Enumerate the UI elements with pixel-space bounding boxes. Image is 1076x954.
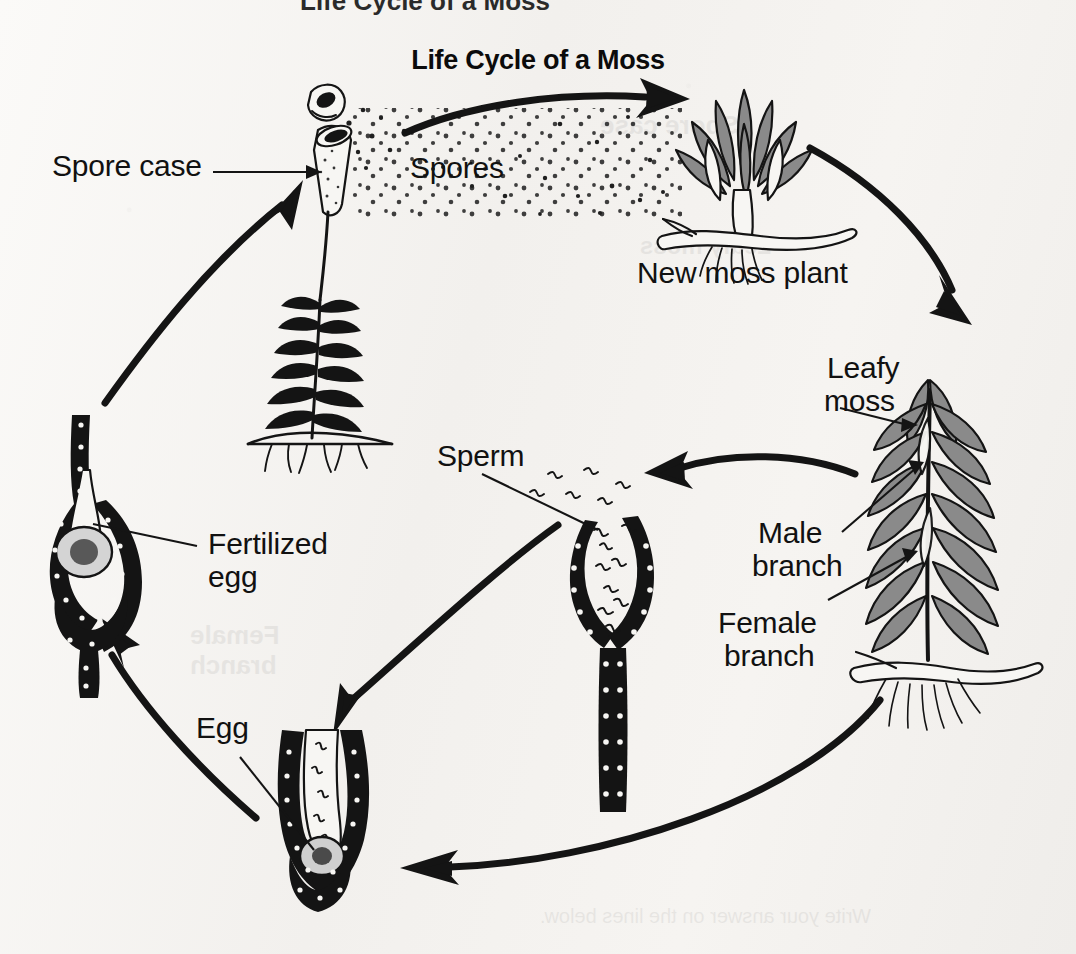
label-spores: Spores xyxy=(410,152,504,184)
operculum-lid xyxy=(308,85,345,121)
label-female-branch-line2: branch xyxy=(724,640,815,672)
new-moss-plant-figure xyxy=(658,90,857,284)
label-leafy-moss-line1: Leafy xyxy=(827,352,899,384)
label-fertilized-egg-line2: egg xyxy=(208,561,257,593)
antheridium-sperm-figure xyxy=(530,468,654,812)
archegonium-fertilized-egg-figure xyxy=(50,415,142,698)
moss-life-cycle-figure: Spore case Leafy moss Female branch Writ… xyxy=(0,0,1076,954)
arrow-leafy-moss-to-sperm xyxy=(644,451,855,489)
label-new-moss-plant: New moss plant xyxy=(637,257,848,289)
label-female-branch-line1: Female xyxy=(718,607,817,639)
leafy-moss-figure xyxy=(850,380,1042,730)
label-leafy-moss-line2: moss xyxy=(824,385,895,417)
life-cycle-diagram: .ink { stroke:#141414; fill:none; stroke… xyxy=(0,0,1076,954)
arrow-sperm-to-egg xyxy=(333,525,558,735)
label-egg: Egg xyxy=(196,712,249,744)
label-male-branch-line1: Male xyxy=(758,517,822,549)
leader-line-spore-case xyxy=(213,165,322,179)
leader-line-sperm xyxy=(482,474,598,530)
gametophyte-leafy-shoot xyxy=(248,297,392,473)
arrow-female-branch-to-egg xyxy=(400,700,880,885)
label-fertilized-egg-line1: Fertilized xyxy=(208,528,328,560)
spore-cloud xyxy=(338,108,682,218)
label-male-branch-line2: branch xyxy=(752,550,843,582)
label-sperm: Sperm xyxy=(437,440,524,472)
label-spore-case: Spore case xyxy=(52,150,202,182)
arrow-fertilized-egg-to-spore-case xyxy=(105,180,303,403)
spore-capsule xyxy=(314,122,354,215)
